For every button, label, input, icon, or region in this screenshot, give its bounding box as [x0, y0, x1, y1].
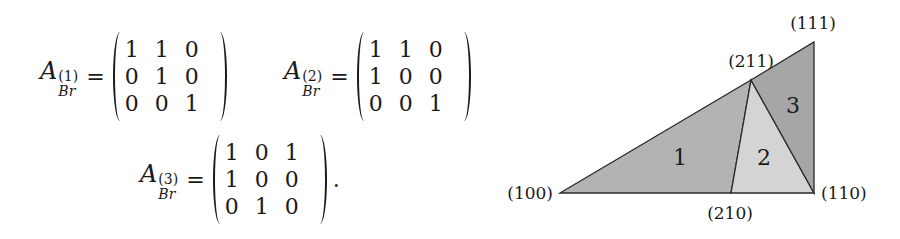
vertex-label-110: (110) — [821, 183, 867, 203]
region-2-label: 2 — [757, 145, 771, 170]
region-1-label: 1 — [673, 145, 687, 170]
region-1 — [560, 80, 751, 193]
vertex-label-211: (211) — [728, 51, 774, 71]
vertex-label-210: (210) — [707, 203, 753, 223]
region-3-label: 3 — [786, 93, 800, 118]
vertex-label-100: (100) — [507, 183, 553, 203]
triangle-subdivision-diagram: 1 2 3 (100) (210) (110) (211) (111) — [0, 0, 900, 239]
vertex-label-111: (111) — [790, 13, 836, 33]
